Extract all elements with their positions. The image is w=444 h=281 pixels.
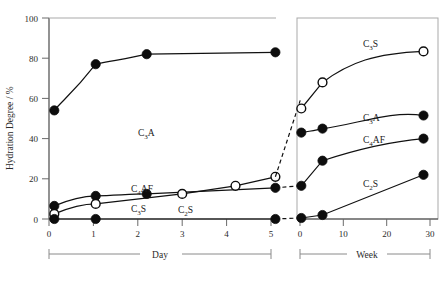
- week-label-c2s: C2S: [363, 179, 378, 192]
- data-point: [297, 104, 306, 113]
- y-ticklabel-60: 60: [29, 94, 39, 104]
- week-label-c3a-tail: A: [373, 113, 380, 123]
- y-ticklabel-0: 0: [34, 215, 39, 225]
- week-label-c4af-tail: AF: [373, 135, 385, 145]
- week-series-c3s-markers: [297, 47, 428, 113]
- data-point: [297, 128, 306, 137]
- day-series-c3a-markers: [50, 48, 280, 115]
- data-point: [419, 111, 428, 120]
- week-label-c3a: C3A: [363, 113, 380, 126]
- data-point: [419, 134, 428, 143]
- data-point: [419, 170, 428, 179]
- week-panel: 0 10 20 30: [297, 18, 438, 262]
- data-point: [297, 181, 306, 190]
- week-label-c2s-tail: S: [373, 179, 378, 189]
- day-label-c3s-tail: S: [141, 204, 146, 214]
- y-ticklabel-40: 40: [29, 134, 39, 144]
- week-bracket-label: Week: [356, 250, 378, 260]
- day-label-c2s-tail: S: [188, 205, 193, 215]
- day-bracket-label: Day: [152, 250, 168, 260]
- data-point: [50, 214, 59, 223]
- data-point: [91, 200, 100, 209]
- day-label-c3s: C3S: [131, 204, 146, 217]
- data-point: [178, 190, 187, 199]
- y-ticklabel-80: 80: [29, 54, 39, 64]
- data-point: [91, 60, 100, 69]
- day-panel: 0 1 2 3 4 5: [47, 18, 280, 262]
- day-series-c3s-line: [54, 177, 275, 214]
- y-axis-title: Hydration Degree / %: [5, 86, 15, 170]
- data-point: [271, 172, 280, 181]
- data-point: [142, 50, 151, 59]
- data-point: [318, 156, 327, 165]
- data-point: [318, 124, 327, 133]
- day-series-c4af-line: [54, 188, 275, 206]
- panel-connectors: [275, 100, 300, 219]
- y-ticklabel-20: 20: [29, 174, 39, 184]
- data-point: [50, 106, 59, 115]
- week-label-c3s-tail: S: [373, 39, 378, 49]
- data-point: [318, 78, 327, 87]
- data-point: [297, 213, 306, 222]
- day-label-c3a-tail: A: [148, 128, 155, 138]
- day-label-c4af-tail: AF: [141, 184, 153, 194]
- data-point: [271, 48, 280, 57]
- week-label-c3s: C3S: [363, 39, 378, 52]
- y-ticklabel-100: 100: [25, 14, 39, 24]
- hydration-degree-chart: 100 80 60 40 20 0 Hydration Degree / % 0…: [0, 0, 444, 281]
- day-x-ticklabel-4: 4: [224, 229, 229, 239]
- week-x-ticklabel-20: 20: [382, 229, 392, 239]
- day-x-ticklabel-0: 0: [47, 229, 52, 239]
- data-point: [231, 181, 240, 190]
- week-bracket: Week: [300, 246, 430, 262]
- data-point: [318, 210, 327, 219]
- day-series-c3a-line: [54, 52, 275, 110]
- day-x-ticklabel-5: 5: [269, 229, 274, 239]
- day-x-ticklabel-2: 2: [136, 229, 141, 239]
- day-label-c2s: C2S: [178, 205, 193, 218]
- day-bracket: Day: [49, 246, 271, 262]
- day-x-ticklabel-1: 1: [91, 229, 96, 239]
- week-x-ticklabel-30: 30: [426, 229, 436, 239]
- week-x-ticklabel-0: 0: [298, 229, 303, 239]
- week-x-ticklabel-10: 10: [339, 229, 349, 239]
- data-point: [419, 47, 428, 56]
- data-point: [91, 214, 100, 223]
- day-x-ticklabel-3: 3: [180, 229, 185, 239]
- connector-c3s: [275, 100, 300, 176]
- y-axis-group: 100 80 60 40 20 0 Hydration Degree / %: [5, 14, 49, 225]
- day-label-c3a: C3A: [138, 128, 155, 141]
